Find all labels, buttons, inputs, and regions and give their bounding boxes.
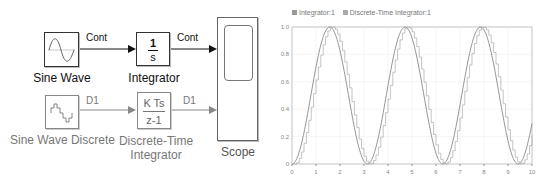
integrator-block[interactable]: 1 s (136, 32, 170, 66)
integrator-label: Integrator (126, 71, 182, 85)
svg-text:0: 0 (286, 161, 290, 167)
sine-wave-label: Sine Wave (28, 71, 96, 85)
discrete-time-integrator-block[interactable]: K Ts z-1 (137, 92, 171, 129)
svg-text:2: 2 (338, 169, 342, 175)
svg-text:0: 0 (290, 169, 294, 175)
sine-wave-discrete-label: Sine Wave Discrete (10, 133, 114, 147)
svg-text:5: 5 (410, 169, 414, 175)
svg-text:7: 7 (458, 169, 462, 175)
svg-text:0.4: 0.4 (281, 106, 290, 112)
dti-label-line2: Integrator (118, 148, 194, 162)
block-diagram: Sine Wave Cont 1 s Integrator Cont Sine … (0, 0, 280, 191)
svg-text:6: 6 (434, 169, 438, 175)
sine-wave-discrete-block[interactable] (45, 95, 79, 129)
plot-area[interactable]: 01234567891000.20.40.60.81.0 (280, 0, 546, 191)
signal-label-d1-2: D1 (183, 95, 196, 106)
svg-text:1.0: 1.0 (281, 24, 290, 30)
dti-denominator: z-1 (138, 114, 170, 126)
scope-block[interactable] (217, 17, 258, 141)
fraction-bar (143, 111, 165, 112)
scope-label: Scope (216, 145, 260, 159)
svg-text:0.8: 0.8 (281, 51, 290, 57)
svg-text:10: 10 (529, 169, 536, 175)
svg-text:4: 4 (386, 169, 390, 175)
scope-screen-icon (224, 25, 253, 81)
svg-text:8: 8 (482, 169, 486, 175)
discrete-sine-icon (46, 96, 78, 128)
scope-chart: Integrator:1 Discrete-Time Integrator:1 … (280, 0, 546, 191)
svg-text:0.6: 0.6 (281, 79, 290, 85)
sine-wave-icon (45, 33, 78, 66)
signal-label-d1-1: D1 (86, 95, 99, 106)
signal-label-cont-2: Cont (177, 32, 198, 43)
svg-text:9: 9 (506, 169, 510, 175)
integrator-denominator: s (137, 51, 169, 63)
sine-wave-block[interactable] (44, 32, 79, 67)
signal-label-cont-1: Cont (86, 32, 107, 43)
svg-text:3: 3 (362, 169, 366, 175)
dti-label-line1: Discrete-Time (118, 134, 194, 148)
dti-numerator: K Ts (136, 97, 172, 109)
svg-text:0.2: 0.2 (281, 134, 290, 140)
integrator-numerator: 1 (137, 37, 169, 49)
svg-text:1: 1 (314, 169, 318, 175)
